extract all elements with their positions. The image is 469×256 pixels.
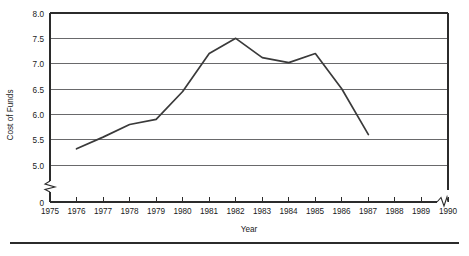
- plot-frame: [50, 13, 448, 190]
- chart-container: 8.0 7.5 7.0 6.5 6.0 5.5 5.0 0 1975 1976 …: [0, 0, 469, 256]
- x-tick-label: 1984: [279, 207, 298, 216]
- x-tick-label: 1980: [173, 207, 192, 216]
- x-tick-label: 1990: [439, 207, 458, 216]
- x-tick-label: 1982: [226, 207, 245, 216]
- y-tick-label: 7.5: [33, 35, 45, 44]
- x-tick-label: 1983: [253, 207, 272, 216]
- x-tick-label: 1978: [120, 207, 139, 216]
- x-axis-title: Year: [241, 225, 258, 234]
- x-tick-label: 1976: [67, 207, 86, 216]
- x-tick-label: 1986: [332, 207, 351, 216]
- y-tick-label: 6.0: [33, 111, 45, 120]
- y-tick-label: 7.0: [33, 60, 45, 69]
- x-tick-label: 1989: [412, 207, 431, 216]
- x-tick-label: 1979: [147, 207, 166, 216]
- cost-of-funds-line-chart: 8.0 7.5 7.0 6.5 6.0 5.5 5.0 0 1975 1976 …: [0, 0, 469, 256]
- y-axis-title: Cost of Funds: [6, 90, 15, 141]
- y-tick-label: 5.0: [33, 162, 45, 171]
- x-tick-label: 1981: [200, 207, 219, 216]
- x-axis-ticks: [50, 197, 448, 202]
- x-axis-tick-labels: 1975 1976 1977 1978 1979 1980 1981 1982 …: [41, 207, 458, 216]
- x-tick-label: 1977: [94, 207, 113, 216]
- x-tick-label: 1988: [385, 207, 404, 216]
- y-tick-label: 6.5: [33, 86, 45, 95]
- x-tick-label: 1987: [359, 207, 378, 216]
- y-tick-label: 8.0: [33, 10, 45, 19]
- y-tick-label: 5.5: [33, 136, 45, 145]
- y-axis-tick-labels: 8.0 7.5 7.0 6.5 6.0 5.5 5.0 0: [33, 10, 45, 208]
- cost-of-funds-series-line: [77, 38, 369, 148]
- x-axis: [50, 197, 448, 206]
- x-tick-label: 1985: [306, 207, 325, 216]
- x-tick-label: 1975: [41, 207, 60, 216]
- gridlines: [50, 38, 448, 165]
